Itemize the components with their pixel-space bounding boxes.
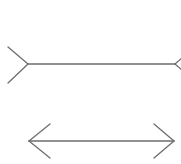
fin-line — [29, 141, 50, 158]
fins-out-line — [8, 47, 181, 83]
fin-line — [175, 64, 181, 71]
muller-lyer-diagram — [0, 0, 181, 164]
fin-line — [8, 47, 28, 64]
fin-line — [29, 124, 50, 141]
double-arrow-line — [29, 124, 174, 158]
fin-line — [154, 141, 174, 158]
fin-line — [175, 57, 181, 64]
fin-line — [8, 64, 28, 83]
fin-line — [154, 124, 174, 141]
